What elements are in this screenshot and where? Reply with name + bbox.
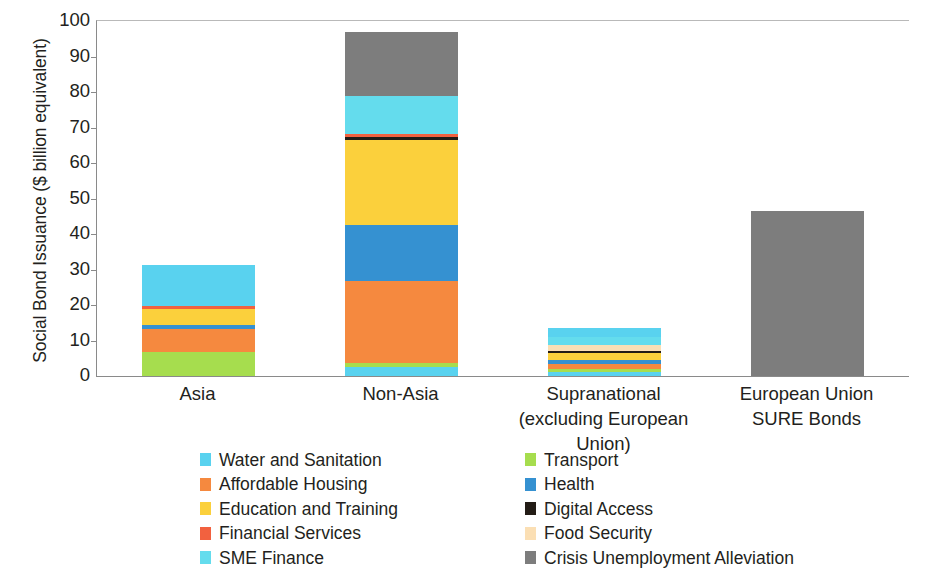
legend-item[interactable]: Food Security xyxy=(525,522,920,545)
bar-segment[interactable] xyxy=(548,372,661,376)
y-tick-mark-40 xyxy=(91,234,97,235)
x-label-line-1: Non-Asia xyxy=(362,383,438,404)
y-tick-label-50: 50 xyxy=(46,189,90,208)
legend-swatch-icon xyxy=(525,478,536,491)
legend-label: Transport xyxy=(544,451,618,469)
y-axis-tick-labels: 1009080706050403020100 xyxy=(40,20,90,375)
chart-legend: Water and SanitationAffordable HousingEd… xyxy=(200,448,920,568)
bar-segment[interactable] xyxy=(345,225,458,281)
y-tick-mark-80 xyxy=(91,92,97,93)
bar-segment[interactable] xyxy=(345,96,458,134)
legend-label: Affordable Housing xyxy=(219,475,368,493)
bar-segment[interactable] xyxy=(142,329,255,352)
y-tick-mark-10 xyxy=(91,341,97,342)
legend-item[interactable]: Affordable Housing xyxy=(200,473,530,496)
y-tick-label-40: 40 xyxy=(46,224,90,243)
legend-label: SME Finance xyxy=(219,549,324,567)
legend-swatch-icon xyxy=(525,502,536,515)
bar-segment[interactable] xyxy=(345,140,458,224)
bar-segment[interactable] xyxy=(345,367,458,376)
bar-segment[interactable] xyxy=(142,265,255,307)
y-tick-label-100: 100 xyxy=(46,11,90,30)
bar-segment[interactable] xyxy=(142,306,255,308)
plot-area xyxy=(96,20,909,377)
plot-inner xyxy=(97,21,909,376)
legend-label: Education and Training xyxy=(219,500,398,518)
bar-segment[interactable] xyxy=(345,281,458,362)
bar-group-supranational[interactable] xyxy=(548,21,661,376)
y-tick-label-80: 80 xyxy=(46,82,90,101)
x-label-line-1: Supranational xyxy=(546,383,660,404)
y-tick-mark-50 xyxy=(91,199,97,200)
bar-segment[interactable] xyxy=(548,353,661,360)
bar-segment[interactable] xyxy=(345,32,458,97)
y-tick-mark-20 xyxy=(91,305,97,306)
x-axis-category-labels: AsiaNon-AsiaSupranational(excluding Euro… xyxy=(96,381,908,441)
y-tick-mark-70 xyxy=(91,128,97,129)
legend-swatch-icon xyxy=(200,502,211,515)
bar-segment[interactable] xyxy=(345,137,458,141)
legend-item[interactable]: Water and Sanitation xyxy=(200,448,530,471)
legend-swatch-icon xyxy=(200,478,211,491)
legend-swatch-icon xyxy=(525,527,536,540)
bar-segment[interactable] xyxy=(345,134,458,137)
stacked-bar-eu-sure[interactable] xyxy=(751,211,864,376)
stacked-bar-chart-figure: Social Bond Issuance ($ billion equivale… xyxy=(0,0,939,568)
y-tick-label-20: 20 xyxy=(46,295,90,314)
legend-label: Food Security xyxy=(544,524,652,542)
y-tick-mark-90 xyxy=(91,57,97,58)
bar-segment[interactable] xyxy=(142,309,255,325)
stacked-bar-supranational[interactable] xyxy=(548,328,661,376)
x-label-non-asia: Non-Asia xyxy=(295,381,506,406)
legend-label: Water and Sanitation xyxy=(219,451,382,469)
y-tick-label-60: 60 xyxy=(46,153,90,172)
legend-swatch-icon xyxy=(200,453,211,466)
stacked-bar-non-asia[interactable] xyxy=(345,32,458,376)
x-label-eu-sure: European UnionSURE Bonds xyxy=(701,381,912,431)
legend-label: Digital Access xyxy=(544,500,653,518)
y-tick-label-70: 70 xyxy=(46,118,90,137)
legend-column-right: TransportHealthDigital AccessFood Securi… xyxy=(525,448,920,568)
legend-item[interactable]: Financial Services xyxy=(200,522,530,545)
bar-segment[interactable] xyxy=(548,328,661,337)
legend-item[interactable]: Education and Training xyxy=(200,497,530,520)
legend-item[interactable]: Transport xyxy=(525,448,920,471)
legend-item[interactable]: Crisis Unemployment Alleviation xyxy=(525,546,920,568)
bar-segment[interactable] xyxy=(548,351,661,353)
bar-segment[interactable] xyxy=(751,211,864,376)
legend-label: Health xyxy=(544,475,595,493)
y-tick-label-90: 90 xyxy=(46,47,90,66)
y-tick-label-30: 30 xyxy=(46,260,90,279)
legend-item[interactable]: Health xyxy=(525,473,920,496)
legend-label: Crisis Unemployment Alleviation xyxy=(544,549,794,567)
y-tick-mark-30 xyxy=(91,270,97,271)
x-label-line-2: SURE Bonds xyxy=(701,406,912,431)
bar-segment[interactable] xyxy=(548,360,661,364)
x-label-line-1: Asia xyxy=(180,383,216,404)
x-label-line-1: European Union xyxy=(740,383,874,404)
x-label-supranational: Supranational(excluding European Union) xyxy=(498,381,709,456)
legend-swatch-icon xyxy=(525,453,536,466)
legend-swatch-icon xyxy=(200,551,211,564)
legend-swatch-icon xyxy=(200,527,211,540)
stacked-bar-asia[interactable] xyxy=(142,265,255,376)
x-label-asia: Asia xyxy=(92,381,303,406)
bar-segment[interactable] xyxy=(548,337,661,345)
legend-label: Financial Services xyxy=(219,524,361,542)
bar-group-asia[interactable] xyxy=(142,21,255,376)
legend-item[interactable]: Digital Access xyxy=(525,497,920,520)
legend-column-left: Water and SanitationAffordable HousingEd… xyxy=(200,448,530,568)
legend-item[interactable]: SME Finance xyxy=(200,546,530,568)
bar-segment[interactable] xyxy=(142,325,255,330)
bar-segment[interactable] xyxy=(548,364,661,369)
bar-group-non-asia[interactable] xyxy=(345,21,458,376)
legend-swatch-icon xyxy=(525,551,536,564)
bar-segment[interactable] xyxy=(548,369,661,372)
y-tick-mark-60 xyxy=(91,163,97,164)
bar-group-eu-sure[interactable] xyxy=(751,21,864,376)
bar-segment[interactable] xyxy=(548,345,661,351)
y-tick-label-0: 0 xyxy=(46,366,90,385)
bar-segment[interactable] xyxy=(142,352,255,376)
bar-segment[interactable] xyxy=(345,363,458,367)
y-tick-label-10: 10 xyxy=(46,331,90,350)
